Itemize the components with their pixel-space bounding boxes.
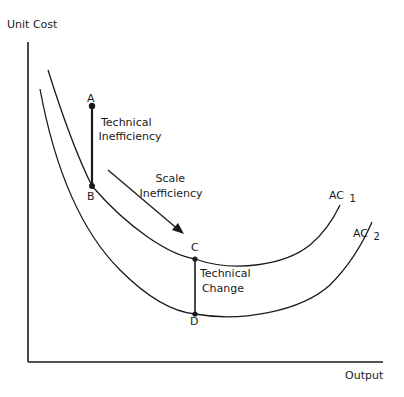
y-axis-label: Unit Cost xyxy=(7,18,58,31)
point-c-marker xyxy=(192,256,197,261)
x-axis-label: Output xyxy=(345,369,384,382)
arrowhead-icon xyxy=(172,223,184,234)
cost-efficiency-chart: Unit Cost Output AC 1 AC 2 A B Technical… xyxy=(0,0,404,397)
point-b-marker xyxy=(89,183,95,189)
point-c-label: C xyxy=(191,241,199,254)
point-d-label: D xyxy=(190,315,198,328)
ac1-label: AC 1 xyxy=(329,189,356,204)
point-a-label: A xyxy=(87,92,95,105)
ac2-label: AC 2 xyxy=(353,227,380,242)
technical-change-label: Technical Change xyxy=(199,267,254,295)
scale-inefficiency-label: Scale Inefficiency xyxy=(139,172,203,200)
technical-inefficiency-label: Technical Inefficiency xyxy=(98,116,162,143)
point-b-label: B xyxy=(87,190,95,203)
